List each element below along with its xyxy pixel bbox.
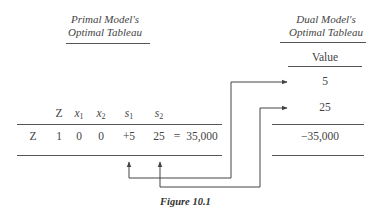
connector-arrows: [0, 0, 375, 218]
figure-caption: Figure 10.1: [160, 196, 211, 207]
